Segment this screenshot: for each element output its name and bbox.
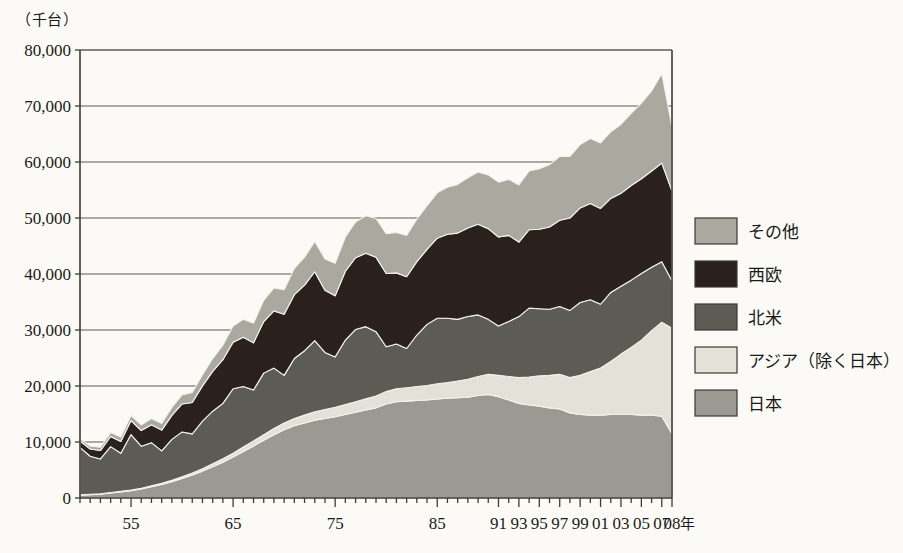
legend-swatch-アジア（除く日本）: [695, 347, 737, 373]
y-tick-label: 0: [63, 489, 72, 508]
x-tick-label: 55: [123, 514, 140, 533]
y-tick-label: 60,000: [24, 153, 71, 172]
x-tick-label: 95: [531, 514, 548, 533]
y-tick-label: 70,000: [24, 97, 71, 116]
x-tick-label: 93: [510, 514, 527, 533]
x-tick-label: 99: [572, 514, 589, 533]
y-tick-label-group: 010,00020,00030,00040,00050,00060,00070,…: [24, 41, 80, 508]
x-tick-group: [80, 498, 672, 507]
legend-group: その他西欧北米アジア（除く日本）日本: [695, 218, 900, 416]
y-tick-label: 30,000: [24, 321, 71, 340]
legend-swatch-その他: [695, 218, 737, 244]
x-axis-unit-label: 年: [680, 516, 695, 532]
x-tick-label-group: 5565758591939597990103050708年: [123, 514, 695, 533]
y-tick-label: 50,000: [24, 209, 71, 228]
y-tick-label: 40,000: [24, 265, 71, 284]
legend-label-その他: その他: [748, 223, 799, 242]
x-tick-label: 01: [592, 514, 609, 533]
x-tick-label: 03: [612, 514, 629, 533]
x-tick-label: 97: [551, 514, 569, 533]
x-tick-label: 05: [633, 514, 650, 533]
legend-swatch-日本: [695, 390, 737, 416]
legend-label-アジア（除く日本）: アジア（除く日本）: [748, 352, 900, 371]
y-tick-label: 20,000: [24, 377, 71, 396]
legend-swatch-北米: [695, 304, 737, 330]
x-tick-label: 85: [429, 514, 446, 533]
legend-swatch-西欧: [695, 261, 737, 287]
x-tick-label: 08: [664, 514, 681, 533]
stacked-area-chart: 010,00020,00030,00040,00050,00060,00070,…: [0, 0, 903, 553]
x-tick-label: 75: [327, 514, 344, 533]
x-tick-label: 91: [490, 514, 507, 533]
chart-root: （千台） 010,00020,00030,00040,00050,00060,0…: [0, 0, 903, 553]
legend-label-北米: 北米: [748, 309, 782, 328]
series-area-group: [80, 74, 672, 498]
y-tick-label: 10,000: [24, 433, 71, 452]
legend-label-西欧: 西欧: [748, 266, 782, 285]
y-tick-label: 80,000: [24, 41, 71, 60]
x-tick-label: 65: [225, 514, 242, 533]
legend-label-日本: 日本: [748, 395, 782, 414]
